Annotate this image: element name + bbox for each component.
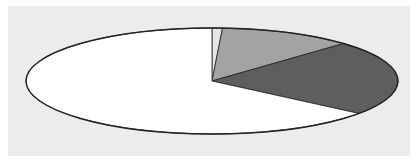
pie-chart [0,0,418,165]
pie-slices [26,28,398,134]
pie-chart-canvas [0,0,418,165]
